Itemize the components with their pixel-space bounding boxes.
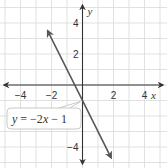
- chart: −4−22442−4 x y y = −2x − 1: [0, 0, 167, 168]
- grid: [0, 0, 167, 168]
- y-tick-label: 4: [73, 18, 79, 29]
- callout-pointer: [59, 102, 81, 109]
- x-tick-label: 4: [142, 90, 148, 101]
- y-tick-label: 2: [73, 49, 79, 60]
- y-axis-label: y: [87, 5, 93, 17]
- x-tick-label: 2: [111, 90, 117, 101]
- x-tick-label: −4: [15, 90, 27, 101]
- y-tick-label: −4: [67, 142, 79, 153]
- equation-callout: y = −2x − 1: [7, 102, 81, 130]
- equation-label: y = −2x − 1: [11, 112, 67, 126]
- x-axis-label: x: [150, 89, 156, 101]
- x-tick-label: −2: [46, 90, 58, 101]
